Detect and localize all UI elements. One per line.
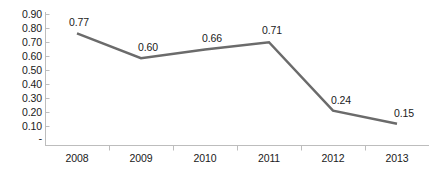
data-label-2010: 0.66 (202, 32, 222, 44)
data-label-2012: 0.24 (331, 94, 351, 106)
data-point-labels: 0.77 0.60 0.66 0.71 0.24 0.15 (0, 0, 441, 175)
data-label-2009: 0.60 (138, 41, 158, 53)
data-label-2011: 0.71 (262, 24, 282, 36)
line-chart: 0.90 0.80 0.70 0.60 0.50 0.40 0.30 0.20 … (0, 0, 441, 175)
data-label-2013: 0.15 (394, 107, 414, 119)
data-label-2008: 0.77 (69, 16, 89, 28)
